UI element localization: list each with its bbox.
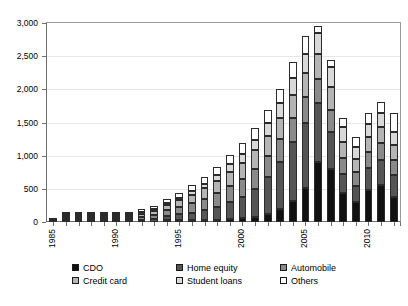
bar-segment-cdo (314, 162, 322, 222)
bar-segment-automobile (390, 160, 398, 175)
bar-segment-home-equity (251, 189, 259, 217)
bar-segment-automobile (213, 193, 221, 206)
x-tick-mark (116, 222, 117, 226)
bar-segment-student-loans (289, 78, 297, 95)
bar-segment-student-loans (339, 127, 347, 142)
x-tick-mark (255, 222, 256, 226)
bar-segment-others (239, 143, 247, 154)
bar-segment-home-equity (201, 210, 209, 220)
bar-2001 (251, 128, 259, 222)
bar-segment-credit-card (327, 87, 335, 110)
bar-segment-credit-card (213, 181, 221, 194)
bar-segment-student-loans (327, 67, 335, 87)
bar-segment-student-loans (377, 113, 385, 127)
x-tick-mark (217, 222, 218, 226)
bar-2006 (314, 26, 322, 222)
bar-segment-home-equity (365, 168, 373, 190)
bar-segment-automobile (327, 110, 335, 132)
bar-1987 (75, 212, 83, 222)
x-tick-label: 1990 (111, 229, 120, 248)
bar-segment-automobile (226, 186, 234, 202)
bar-segment-credit-card (276, 118, 284, 139)
x-tick-label: 2000 (237, 229, 246, 248)
x-tick-mark (129, 222, 130, 226)
bar-1996 (188, 185, 196, 222)
bar-segment-others (251, 128, 259, 140)
y-tick-label: 1,000 (17, 152, 38, 161)
bar-segment-cdo (276, 209, 284, 222)
legend-swatch-credit-card-icon (72, 277, 79, 284)
bar-segment-others (226, 155, 234, 164)
y-axis: 05001,0001,5002,0002,5003,000 (0, 0, 46, 230)
bar-segment-automobile (339, 158, 347, 173)
bar-segment-automobile (276, 139, 284, 162)
bar-2012 (390, 113, 398, 222)
x-tick-label: 2010 (363, 229, 372, 248)
x-tick-mark (205, 222, 206, 226)
bar-segment-student-loans (226, 164, 234, 171)
bar-segment-credit-card (352, 159, 360, 172)
legend-label: Student loans (187, 276, 242, 286)
x-tick-mark (293, 222, 294, 226)
x-tick-mark (394, 222, 395, 226)
bar-segment-others (339, 118, 347, 127)
y-tick-label: 500 (24, 185, 38, 194)
bar-segment-credit-card (302, 73, 310, 97)
bar-segment-credit-card (289, 95, 297, 118)
legend-label: Credit card (83, 276, 127, 286)
x-tick-mark (318, 222, 319, 226)
legend-item-cdo[interactable]: CDO (72, 263, 176, 273)
bar-2008 (339, 118, 347, 222)
legend-label: Automobile (291, 263, 336, 273)
bar-segment-others (327, 60, 335, 67)
bar-segment-student-loans (276, 103, 284, 118)
bar-segment-others (276, 89, 284, 104)
x-tick-label: 1995 (174, 229, 183, 248)
bar-1986 (62, 212, 70, 222)
bar-segment-automobile (264, 156, 272, 177)
bar-segment-automobile (289, 118, 297, 143)
bar-segment-cdo (390, 197, 398, 222)
bar-segment-home-equity (226, 202, 234, 219)
bar-1989 (100, 212, 108, 222)
bar-2003 (276, 89, 284, 222)
bar-segment-cdo (289, 201, 297, 222)
bar-2007 (327, 60, 335, 222)
legend-swatch-cdo-icon (72, 264, 79, 271)
legend-item-home-equity[interactable]: Home equity (176, 263, 280, 273)
x-tick-label: 2005 (300, 229, 309, 248)
bar-1999 (226, 155, 234, 222)
bar-segment-student-loans (314, 33, 322, 54)
legend-item-student-loans[interactable]: Student loans (176, 276, 280, 286)
bar-segment-cdo (327, 169, 335, 222)
bar-segment-others (314, 26, 322, 33)
legend-item-automobile[interactable]: Automobile (280, 263, 372, 273)
chart-legend: CDOHome equityAutomobileCredit cardStude… (72, 261, 372, 287)
x-tick-mark (79, 222, 80, 226)
bar-segment-cdo (377, 185, 385, 222)
x-tick-mark (230, 222, 231, 226)
bar-segment-student-loans (365, 124, 373, 137)
x-tick-mark (368, 222, 369, 226)
x-tick-mark (53, 222, 54, 226)
x-tick-mark (154, 222, 155, 226)
legend-item-credit-card[interactable]: Credit card (72, 276, 176, 286)
y-tick-label: 2,000 (17, 85, 38, 94)
legend-label: Home equity (187, 263, 238, 273)
x-tick-mark (400, 222, 401, 226)
legend-item-others[interactable]: Others (280, 276, 372, 286)
x-tick-label: 1985 (48, 229, 57, 248)
bar-segment-home-equity (352, 186, 360, 203)
bar-segment-others (390, 113, 398, 132)
bar-segment-student-loans (352, 147, 360, 159)
legend-swatch-student-loans-icon (176, 277, 183, 284)
bar-segment-home-equity (289, 142, 297, 200)
bar-segment-credit-card (314, 54, 322, 79)
bar-segment-others (365, 113, 373, 124)
bar-segment-home-equity (276, 162, 284, 208)
bar-1988 (87, 212, 95, 222)
bar-2009 (352, 137, 360, 222)
x-tick-mark (91, 222, 92, 226)
x-tick-mark (179, 222, 180, 226)
x-tick-mark (192, 222, 193, 226)
